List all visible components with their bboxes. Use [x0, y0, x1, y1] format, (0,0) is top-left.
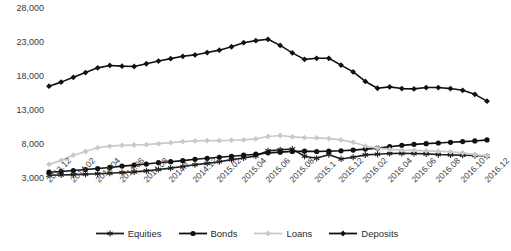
data-point	[436, 140, 441, 145]
data-point	[168, 56, 174, 62]
data-point	[204, 50, 210, 56]
data-point	[192, 157, 197, 162]
data-point	[83, 149, 89, 155]
data-point	[156, 141, 162, 147]
data-point	[278, 150, 283, 155]
data-point	[448, 86, 454, 92]
data-point	[253, 136, 259, 142]
legend-label: Deposits	[361, 228, 398, 239]
data-point	[399, 86, 405, 92]
plot-svg	[46, 8, 490, 178]
legend-item-loans[interactable]: Loans	[253, 228, 312, 239]
y-tick-label: 28,000	[0, 3, 44, 13]
data-point	[156, 58, 162, 64]
data-point	[351, 148, 356, 153]
data-point	[70, 152, 76, 158]
data-point	[338, 137, 344, 143]
data-point	[180, 139, 186, 145]
data-point	[119, 142, 125, 148]
legend-label: Bonds	[211, 228, 238, 239]
data-point	[411, 86, 417, 92]
data-point	[131, 142, 137, 148]
data-point	[192, 52, 198, 58]
legend-swatch-circle-icon	[178, 228, 208, 239]
data-point	[460, 87, 466, 93]
data-point	[70, 74, 76, 80]
data-point	[83, 70, 89, 76]
data-point	[387, 84, 393, 90]
data-point	[95, 65, 101, 71]
data-point	[435, 85, 441, 91]
data-point	[424, 141, 429, 146]
data-point	[265, 134, 271, 140]
data-point	[131, 64, 137, 70]
data-point	[265, 36, 271, 42]
data-point	[277, 133, 283, 139]
y-tick-label: 8,000	[0, 139, 44, 149]
legend-item-deposits[interactable]: Deposits	[328, 228, 398, 239]
data-point	[375, 145, 381, 151]
y-tick-label: 23,000	[0, 37, 44, 47]
chart-legend: EquitiesBondsLoansDeposits	[0, 222, 493, 244]
data-point	[326, 149, 331, 154]
data-point	[484, 137, 489, 142]
data-point	[58, 79, 64, 85]
y-axis: 3,0008,00013,00018,00023,00028,000	[0, 0, 44, 182]
data-point	[326, 136, 332, 142]
data-point	[107, 143, 113, 149]
data-point	[423, 85, 429, 91]
data-point	[143, 61, 149, 67]
data-point	[168, 140, 174, 146]
data-point	[216, 47, 222, 53]
data-point	[241, 40, 247, 46]
x-axis: 2013.122014.022014.042014.062014.082014.…	[46, 178, 490, 220]
series-deposits	[46, 36, 490, 104]
data-point	[204, 138, 210, 144]
legend-swatch-diamond-icon	[253, 228, 283, 239]
data-point	[460, 139, 465, 144]
plot-area	[46, 8, 490, 178]
series-line	[49, 39, 487, 101]
data-point	[472, 138, 477, 143]
data-point	[265, 150, 270, 155]
data-point	[448, 140, 453, 145]
data-point	[302, 56, 308, 62]
data-point	[338, 148, 343, 153]
data-point	[314, 55, 320, 61]
legend-label: Loans	[286, 228, 312, 239]
y-tick-label: 3,000	[0, 173, 44, 183]
y-tick-label: 13,000	[0, 105, 44, 115]
data-point	[46, 83, 52, 89]
legend-item-bonds[interactable]: Bonds	[178, 228, 238, 239]
data-point	[253, 38, 259, 44]
data-point	[302, 135, 308, 141]
y-tick-label: 18,000	[0, 71, 44, 81]
data-point	[180, 53, 186, 59]
legend-label: Equities	[128, 228, 162, 239]
data-point	[302, 149, 307, 154]
data-point	[107, 63, 113, 69]
legend-swatch-diamond-icon	[328, 228, 358, 239]
data-point	[192, 138, 198, 144]
data-point	[241, 137, 247, 143]
data-point	[314, 149, 319, 154]
data-point	[229, 44, 235, 50]
data-point	[143, 142, 149, 148]
legend-item-equities[interactable]: Equities	[95, 228, 162, 239]
data-point	[217, 155, 222, 160]
data-point	[119, 63, 125, 69]
data-point	[350, 139, 356, 145]
data-point	[241, 153, 246, 158]
data-point	[95, 145, 101, 151]
data-point	[253, 152, 258, 157]
data-point	[411, 142, 416, 147]
data-point	[216, 138, 222, 144]
data-point	[46, 162, 52, 168]
data-point	[399, 143, 404, 148]
data-point	[229, 137, 235, 143]
data-point	[314, 135, 320, 141]
data-point	[290, 149, 295, 154]
legend-swatch-asterisk-icon	[95, 228, 125, 239]
data-point	[289, 134, 295, 140]
